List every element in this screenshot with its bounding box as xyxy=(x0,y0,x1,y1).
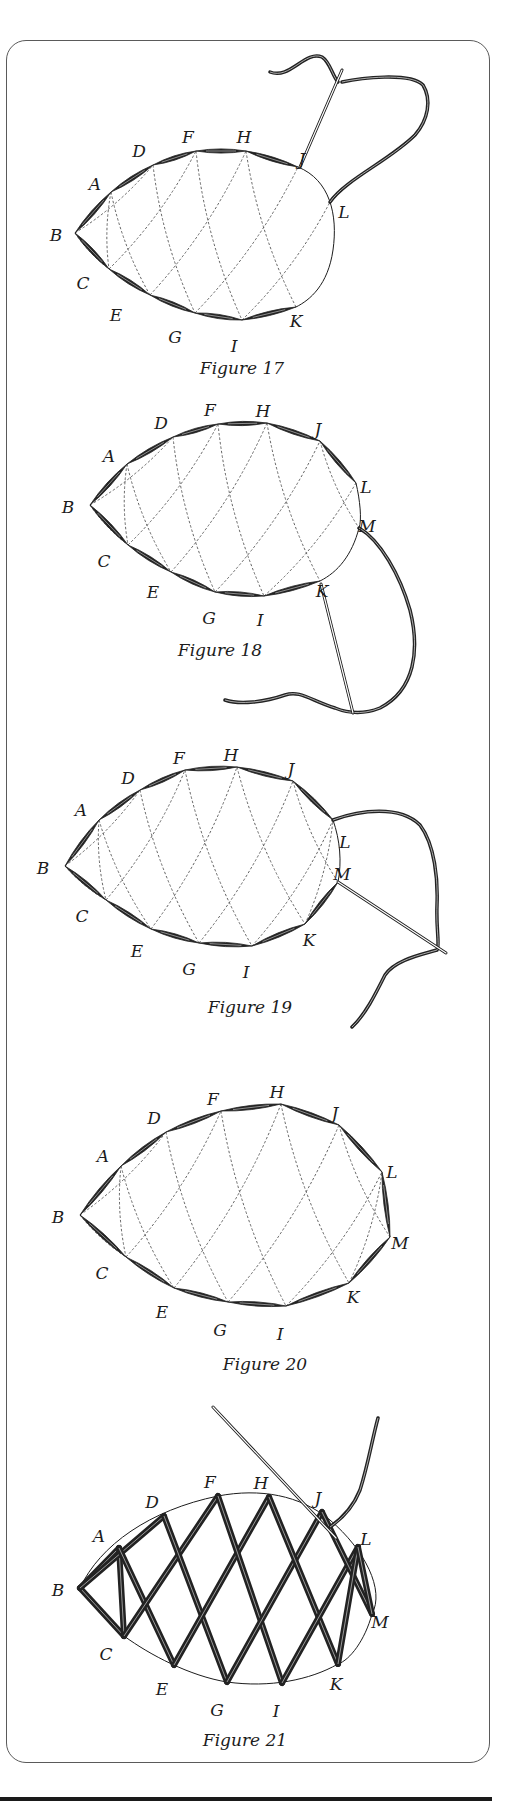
point-label-m: M xyxy=(357,516,376,536)
dashed-guide-line xyxy=(195,167,298,313)
dashed-guide-line xyxy=(98,820,106,900)
point-label-e: E xyxy=(130,941,144,961)
figure-20: ABCDEFGHIJKLMFigure 20 xyxy=(51,1082,410,1374)
couched-thread-segment-highlight xyxy=(357,1246,382,1274)
figure-19: ABCDEFGHIJKLMFigure 19 xyxy=(36,745,446,1027)
point-label-a: A xyxy=(95,1146,109,1166)
point-label-c: C xyxy=(75,906,88,926)
figure-21: ABCDEFGHIJKLMFigure 21 xyxy=(51,1407,390,1750)
couched-thread-segment-highlight xyxy=(159,299,186,310)
dashed-guide-line xyxy=(106,770,185,900)
couched-thread-segment-highlight xyxy=(263,928,295,941)
point-label-i: I xyxy=(230,336,238,356)
point-label-f: F xyxy=(203,1472,217,1492)
dashed-guide-line xyxy=(111,192,150,295)
point-label-h: H xyxy=(236,127,253,147)
point-label-j: J xyxy=(285,759,296,779)
dashed-guide-line xyxy=(199,781,293,943)
point-label-j: J xyxy=(329,1103,340,1123)
point-label-m: M xyxy=(390,1233,409,1253)
dashed-guide-line xyxy=(140,790,199,943)
lattice-thread-highlight xyxy=(218,1496,282,1683)
point-label-m: M xyxy=(332,864,351,884)
figure-17: ABCDEFGHIJKLFigure 17 xyxy=(49,56,428,378)
dashed-guide-line xyxy=(151,767,237,929)
point-label-d: D xyxy=(153,413,168,433)
point-label-l: L xyxy=(359,477,371,497)
couched-thread-segment-highlight xyxy=(117,274,142,290)
dashed-guide-line xyxy=(107,192,111,269)
couched-thread-segment-highlight xyxy=(278,427,310,438)
couched-thread-segment-highlight xyxy=(275,584,309,593)
couched-thread-segment-highlight xyxy=(248,770,282,778)
embroidery-figures: ABCDEFGHIJKLFigure 17 ABCDEFGHIJKLMFigur… xyxy=(0,0,518,1803)
point-label-b: B xyxy=(49,225,63,245)
couched-thread-segment-highlight xyxy=(88,1176,113,1205)
working-thread-highlight xyxy=(225,528,415,713)
couched-thread-segment-highlight xyxy=(149,774,176,786)
couched-thread-segment-highlight xyxy=(82,240,102,262)
point-label-l: L xyxy=(337,202,349,222)
point-label-e: E xyxy=(155,1302,169,1322)
point-label-k: K xyxy=(346,1287,361,1307)
dashed-guide-line xyxy=(286,1172,382,1306)
figure-caption: Figure 19 xyxy=(207,997,292,1017)
couched-thread-segment-highlight xyxy=(177,1115,210,1128)
point-label-b: B xyxy=(51,1207,65,1227)
point-label-h: H xyxy=(269,1082,286,1102)
dashed-guide-line xyxy=(166,1132,228,1302)
dashed-guide-line xyxy=(221,1111,286,1306)
point-label-c: C xyxy=(97,551,110,571)
couched-thread-segment-highlight xyxy=(256,154,287,164)
point-label-j: J xyxy=(312,1488,323,1508)
point-label-h: H xyxy=(253,1473,270,1493)
dashed-guide-line xyxy=(267,423,320,581)
point-label-f: F xyxy=(181,127,195,147)
working-thread xyxy=(330,77,428,202)
point-label-k: K xyxy=(315,581,330,601)
point-label-c: C xyxy=(76,273,89,293)
dashed-guide-line xyxy=(320,441,359,528)
dashed-guide-line xyxy=(153,165,195,313)
dashed-guide-line xyxy=(150,151,246,295)
dashed-guide-line xyxy=(228,1125,339,1302)
point-label-b: B xyxy=(51,1580,65,1600)
needle-shine xyxy=(338,882,446,953)
couched-thread-segment-highlight xyxy=(162,154,188,162)
point-label-b: B xyxy=(36,858,50,878)
couched-thread-segment-highlight xyxy=(182,427,209,435)
shape-outline xyxy=(296,167,334,307)
point-label-d: D xyxy=(131,141,146,161)
point-label-i: I xyxy=(256,610,264,630)
couched-thread-segment-highlight xyxy=(180,576,206,588)
point-label-g: G xyxy=(210,1700,224,1720)
point-label-k: K xyxy=(329,1674,344,1694)
point-label-d: D xyxy=(146,1108,161,1128)
dashed-guide-line xyxy=(215,441,320,592)
point-label-d: D xyxy=(120,768,135,788)
figure-caption: Figure 17 xyxy=(199,358,284,378)
point-label-j: J xyxy=(296,149,307,169)
point-label-a: A xyxy=(91,1526,105,1546)
couched-thread-segment-highlight xyxy=(98,513,121,537)
couched-thread-segment-highlight xyxy=(185,1291,217,1299)
point-label-d: D xyxy=(144,1492,159,1512)
working-thread xyxy=(270,56,338,82)
working-thread-highlight xyxy=(330,1418,378,1527)
point-label-a: A xyxy=(101,446,115,466)
point-label-e: E xyxy=(109,305,123,325)
couched-thread-segment-highlight xyxy=(137,550,163,566)
dashed-guide-line xyxy=(124,464,128,545)
dashed-guide-line xyxy=(171,423,267,572)
figure-caption: Figure 20 xyxy=(222,1354,307,1374)
couched-thread-segment-highlight xyxy=(348,1134,374,1162)
point-label-l: L xyxy=(359,1529,371,1549)
point-label-i: I xyxy=(276,1324,284,1344)
shape-outline xyxy=(320,483,360,581)
needle-shine xyxy=(213,1407,336,1538)
couched-thread-segment-highlight xyxy=(136,442,164,458)
needle-shine xyxy=(321,584,353,713)
point-label-i: I xyxy=(272,1701,280,1721)
point-label-a: A xyxy=(87,174,101,194)
dashed-guide-line xyxy=(246,151,296,307)
